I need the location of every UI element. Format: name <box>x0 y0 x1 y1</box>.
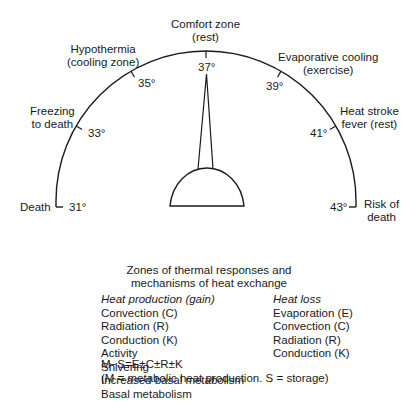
heat-loss-list: Heat loss Evaporation (E) Convection (C)… <box>273 293 353 361</box>
zone-label-line1: Comfort zone <box>171 18 240 31</box>
temp-37: 37° <box>198 61 215 74</box>
gauge-hub-dome <box>170 168 244 206</box>
zone-label-risk-of-death: Risk of death <box>364 198 399 224</box>
equation-formula: M−S=E±C±R±K <box>101 358 329 372</box>
zone-label-freezing: Freezing to death <box>30 105 75 131</box>
zone-label-line1: Freezing <box>30 105 75 118</box>
list-item: Basal metabolism <box>101 388 244 402</box>
zone-label-line2: fever (rest) <box>340 118 399 131</box>
zone-label-line1: Evaporative cooling <box>278 51 378 64</box>
caption-line2: mechanisms of heat exchange <box>0 277 418 290</box>
heat-loss-header: Heat loss <box>273 293 353 307</box>
temp-31: 31° <box>69 201 86 214</box>
zone-label-line1: Hypothermia <box>67 43 139 56</box>
zone-label-line2: to death <box>30 118 75 131</box>
zone-label-line1: Heat stroke <box>340 105 399 118</box>
list-item: Evaporation (E) <box>273 307 353 321</box>
tick-41 <box>330 126 336 130</box>
zone-label-line2: (rest) <box>171 31 240 44</box>
heat-balance-equation: M−S=E±C±R±K (M = metabolic heat producti… <box>101 358 329 385</box>
tick-35 <box>131 71 135 77</box>
zone-label-hypothermia: Hypothermia (cooling zone) <box>67 43 139 69</box>
list-item: Convection (C) <box>101 307 244 321</box>
figure-caption: Zones of thermal responses and mechanism… <box>0 264 418 290</box>
zone-label-heat-stroke: Heat stroke fever (rest) <box>340 105 399 131</box>
zone-label-line2: death <box>364 211 399 224</box>
zone-label-evaporative: Evaporative cooling (exercise) <box>278 51 378 77</box>
zone-label-line2: (exercise) <box>278 64 378 77</box>
zone-label-line2: (cooling zone) <box>67 56 139 69</box>
list-item: Radiation (R) <box>273 334 353 348</box>
temp-43: 43° <box>330 201 347 214</box>
temp-35: 35° <box>138 77 155 90</box>
needle <box>198 74 213 169</box>
tick-33 <box>76 126 82 130</box>
zone-label-comfort: Comfort zone (rest) <box>171 18 240 44</box>
zone-label-death: Death <box>20 201 51 214</box>
temp-41: 41° <box>310 127 327 140</box>
heat-production-header: Heat production (gain) <box>101 293 244 307</box>
zone-label-line1: Risk of <box>364 198 399 211</box>
temp-33: 33° <box>88 127 105 140</box>
list-item: Radiation (R) <box>101 320 244 334</box>
list-item: Convection (C) <box>273 320 353 334</box>
zone-label-text: Death <box>20 201 51 213</box>
caption-line1: Zones of thermal responses and <box>0 264 418 277</box>
equation-legend: (M = metabolic heat production. S = stor… <box>101 372 329 386</box>
list-item: Conduction (K) <box>101 334 244 348</box>
temp-39: 39° <box>266 80 283 93</box>
